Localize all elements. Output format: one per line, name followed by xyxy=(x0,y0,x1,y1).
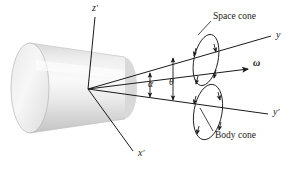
physics-figure: z′ x′ y y′ ω α θ Space cone Body cone xyxy=(0,0,297,175)
axis-label-z-prime: z′ xyxy=(92,3,98,13)
space-cone-label: Space cone xyxy=(213,12,256,22)
prime-mark-x: ′ xyxy=(142,148,144,158)
space-cone-leader xyxy=(198,21,211,35)
body-cone-arrow-4 xyxy=(197,126,199,134)
body-cone-label: Body cone xyxy=(215,131,256,141)
prime-mark-y-prime: ′ xyxy=(277,107,279,117)
axis-label-y: y xyxy=(276,30,280,40)
cylinder-body xyxy=(11,43,137,133)
space-cone-circle xyxy=(189,32,223,88)
body-cone-leader xyxy=(200,108,213,131)
axis-label-y-prime: y′ xyxy=(273,107,279,117)
theta-label: θ xyxy=(169,78,174,88)
alpha-label: α xyxy=(148,80,153,90)
space-cone-arrow-2 xyxy=(214,44,216,52)
cylinder-far-cap xyxy=(125,57,137,119)
prime-mark-z: ′ xyxy=(96,3,98,13)
space-cone-ellipse xyxy=(189,32,223,88)
leader-lines xyxy=(198,21,213,131)
cylinder-near-cap xyxy=(11,43,49,133)
body-cone-arrow-2 xyxy=(218,92,220,100)
axis-label-x-prime: x′ xyxy=(138,148,144,158)
omega-label: ω xyxy=(253,58,260,68)
